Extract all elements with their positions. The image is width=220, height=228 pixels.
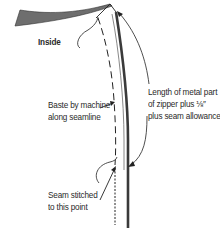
zipper-edge-line [116, 12, 128, 228]
baste-label: Baste by machine along seamline [48, 99, 110, 123]
inside-pointer [78, 17, 98, 48]
arrowhead-seam [111, 166, 116, 172]
basting-seamline [98, 18, 116, 165]
seam-line2: to this point [48, 201, 98, 213]
zipper-diagram: Inside Length of metal part of zipper pl… [0, 0, 220, 228]
metal-length-line2: of zipper plus ⅛″ [148, 98, 220, 110]
inside-label: Inside [38, 36, 61, 48]
metal-length-line1: Length of metal part [148, 86, 220, 98]
metal-length-bottom-arrow [131, 116, 147, 165]
baste-line2: along seamline [48, 111, 110, 123]
metal-length-line3: plus seam allowance [148, 110, 220, 122]
metal-length-label: Length of metal part of zipper plus ⅛″ p… [148, 86, 220, 122]
seam-line1: Seam stitched [48, 189, 98, 201]
fabric-fold-shape [15, 4, 112, 26]
zipper-edge-inner [112, 14, 124, 170]
seam-label: Seam stitched to this point [48, 189, 98, 213]
seam-pointer [100, 168, 115, 200]
baste-line1: Baste by machine [48, 99, 110, 111]
